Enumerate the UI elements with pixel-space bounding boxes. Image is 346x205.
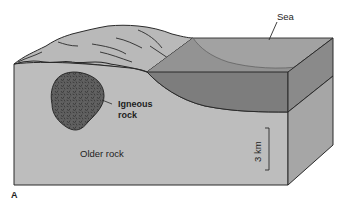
scale-label: 3 km	[252, 141, 263, 162]
igneous-label-line2: rock	[118, 110, 138, 120]
panel-label: A	[11, 190, 18, 200]
geologic-block-diagram: Sea Igneous rock Older rock 3 km A	[0, 0, 346, 205]
igneous-label-line1: Igneous	[118, 99, 153, 109]
sea-leader-line	[269, 22, 277, 40]
sea-label: Sea	[277, 11, 295, 22]
older-rock-label: Older rock	[80, 148, 124, 159]
